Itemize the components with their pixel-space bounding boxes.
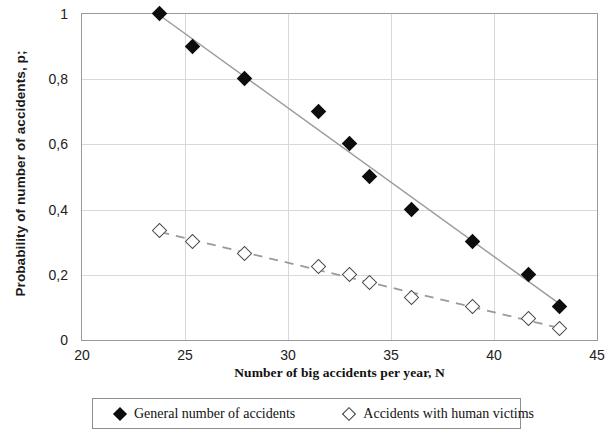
x-tick-label: 20 xyxy=(57,348,107,362)
filled-diamond-icon xyxy=(113,406,127,420)
x-tick-label: 45 xyxy=(572,348,613,362)
y-tick-label: 0,8 xyxy=(0,72,68,86)
trendline xyxy=(160,232,560,328)
y-tick-label: 0,4 xyxy=(0,203,68,217)
x-tick-label: 30 xyxy=(263,348,313,362)
x-tick-label: 40 xyxy=(469,348,519,362)
legend-label: General number of accidents xyxy=(134,406,295,422)
legend-item-victims: Accidents with human victims xyxy=(344,406,534,422)
trendline xyxy=(160,16,560,304)
legend-item-general: General number of accidents xyxy=(115,406,295,422)
x-axis-title: Number of big accidents per year, N xyxy=(81,365,598,381)
y-tick-label: 0,6 xyxy=(0,137,68,151)
y-tick-label: 0,2 xyxy=(0,268,68,282)
chart-figure: Probability of number of accidents, p; 0… xyxy=(0,0,613,431)
y-tick-label: 0 xyxy=(0,333,68,347)
chart-legend: General number of accidents Accidents wi… xyxy=(92,398,521,429)
x-tick-label: 25 xyxy=(160,348,210,362)
trendlines xyxy=(82,14,597,340)
hollow-diamond-icon xyxy=(342,406,356,420)
y-axis-title: Probability of number of accidents, p; xyxy=(13,4,28,344)
y-tick-label: 1 xyxy=(0,7,68,21)
legend-label: Accidents with human victims xyxy=(363,406,534,422)
plot-area xyxy=(81,13,598,341)
x-tick-label: 35 xyxy=(366,348,416,362)
